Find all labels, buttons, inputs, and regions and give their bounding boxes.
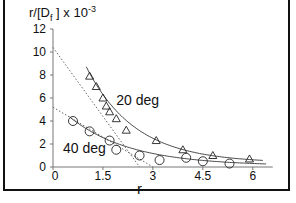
circle-marker [135,151,144,160]
x-tick-label: 3 [150,169,157,183]
x-axis-label: r [137,180,142,197]
triangle-marker [245,155,253,162]
circle-marker [198,157,207,166]
scatter-plot: 02468101201.534.56r20 deg40 deg [0,0,296,203]
circle-marker [112,145,121,154]
x-tick-label: 0 [52,169,59,183]
annotation-40deg: 40 deg [63,140,106,156]
x-tick-label: 1.5 [95,169,112,183]
circle-marker [68,117,77,126]
y-tick-label: 12 [33,22,47,36]
y-tick-label: 8 [39,68,46,82]
annotation-20deg: 20 deg [116,92,159,108]
y-tick-label: 2 [39,137,46,151]
circle-marker [182,153,191,162]
triangle-marker [122,126,130,133]
y-tick-label: 4 [39,114,46,128]
y-tick-label: 6 [39,91,46,105]
y-tick-label: 0 [39,160,46,174]
triangle-marker [112,115,120,122]
y-tick-label: 10 [33,45,47,59]
x-tick-label: 6 [249,169,256,183]
circle-marker [155,156,164,165]
x-tick-label: 4.5 [195,169,212,183]
